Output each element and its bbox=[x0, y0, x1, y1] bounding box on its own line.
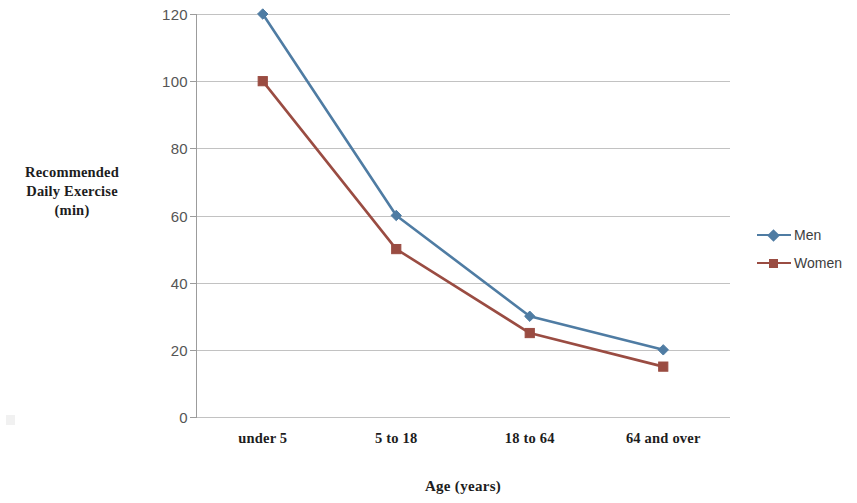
y-axis-tick-label: 0 bbox=[142, 409, 188, 426]
y-axis-tick bbox=[190, 350, 197, 351]
legend-marker-diamond-icon bbox=[767, 229, 780, 242]
y-axis-tick-label: 60 bbox=[142, 207, 188, 224]
y-axis-tick bbox=[190, 148, 197, 149]
legend-item-men[interactable]: Men bbox=[757, 221, 857, 249]
y-axis-title: RecommendedDaily Exercise(min) bbox=[2, 163, 142, 220]
y-axis-title-line: Daily Exercise bbox=[2, 182, 142, 201]
legend-swatch-women bbox=[757, 256, 791, 270]
y-axis-tick bbox=[190, 216, 197, 217]
data-point-women-1 bbox=[392, 244, 401, 253]
series-line-men bbox=[263, 14, 664, 350]
data-point-women-2 bbox=[525, 328, 534, 337]
legend-item-women[interactable]: Women bbox=[757, 249, 857, 277]
line-chart: 020406080100120 RecommendedDaily Exercis… bbox=[0, 0, 857, 503]
x-axis-tick-labels: under 55 to 1818 to 6464 and over bbox=[196, 430, 730, 454]
y-axis-tick-label: 120 bbox=[142, 6, 188, 23]
series-layer bbox=[196, 14, 730, 417]
y-axis-tick-label: 80 bbox=[142, 140, 188, 157]
y-axis-title-line: Recommended bbox=[2, 163, 142, 182]
legend-label: Women bbox=[791, 255, 842, 271]
y-axis-line bbox=[196, 14, 197, 417]
x-axis-tick-label: 5 to 18 bbox=[330, 430, 464, 454]
gridline bbox=[196, 417, 730, 418]
y-axis-tick-label: 20 bbox=[142, 341, 188, 358]
y-axis-tick bbox=[190, 417, 197, 418]
data-point-women-0 bbox=[258, 77, 267, 86]
legend: MenWomen bbox=[757, 221, 857, 277]
scan-artifact bbox=[6, 415, 15, 425]
legend-marker-square-icon bbox=[769, 259, 778, 268]
y-axis-tick-label: 40 bbox=[142, 274, 188, 291]
series-line-women bbox=[263, 81, 664, 366]
plot-area bbox=[196, 14, 730, 417]
legend-swatch-men bbox=[757, 228, 791, 242]
y-axis-tick-label: 100 bbox=[142, 73, 188, 90]
x-axis-title: Age (years) bbox=[196, 478, 730, 495]
y-axis-tick bbox=[190, 81, 197, 82]
x-axis-tick-label: under 5 bbox=[196, 430, 330, 454]
y-axis-tick bbox=[190, 14, 197, 15]
y-axis-tick bbox=[190, 283, 197, 284]
data-point-women-3 bbox=[659, 362, 668, 371]
y-axis-tick-labels: 020406080100120 bbox=[136, 14, 188, 417]
x-axis-tick-label: 64 and over bbox=[597, 430, 731, 454]
legend-label: Men bbox=[791, 227, 821, 243]
x-axis-tick-label: 18 to 64 bbox=[463, 430, 597, 454]
data-point-men-3 bbox=[658, 345, 668, 355]
y-axis-title-line: (min) bbox=[2, 201, 142, 220]
